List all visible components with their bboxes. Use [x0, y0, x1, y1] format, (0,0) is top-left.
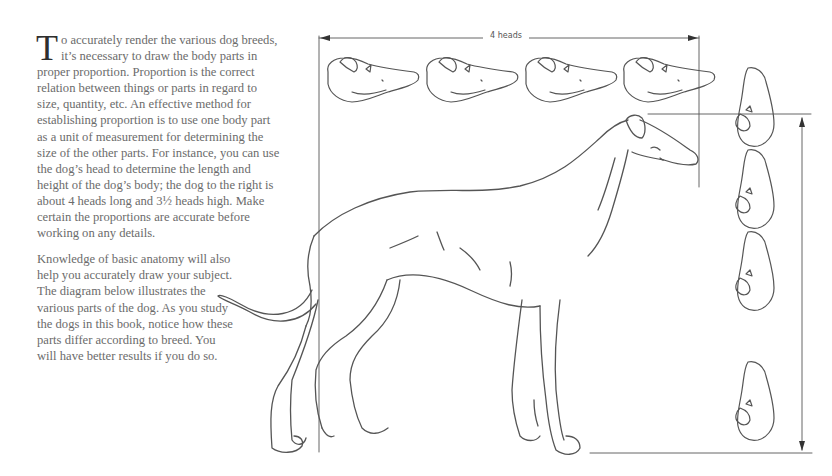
head-icon — [736, 68, 774, 147]
head-icon — [624, 58, 715, 103]
head-icon — [736, 150, 774, 229]
length-dimension-line — [319, 35, 699, 452]
proportion-diagram — [0, 0, 832, 476]
head-icon — [736, 232, 774, 311]
head-icon — [427, 58, 518, 103]
length-dimension-label: 4 heads — [483, 31, 529, 40]
head-icon — [526, 58, 617, 103]
dog-illustration — [218, 115, 698, 454]
heads-column — [736, 68, 774, 441]
head-icon — [736, 362, 774, 441]
head-icon — [328, 58, 419, 103]
heads-row — [328, 58, 715, 103]
height-dimension-line — [590, 114, 812, 453]
